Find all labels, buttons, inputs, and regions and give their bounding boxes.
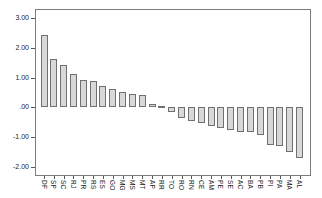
x-tick-label-MS: MS bbox=[129, 180, 136, 190]
bar-ES bbox=[99, 86, 106, 108]
x-tick-mark bbox=[64, 176, 65, 179]
bar-PA bbox=[276, 107, 283, 146]
x-tick-mark bbox=[172, 176, 173, 179]
x-tick-label-AM: AM bbox=[208, 180, 215, 190]
x-tick-mark bbox=[162, 176, 163, 179]
x-tick-mark bbox=[231, 176, 232, 179]
x-tick-mark bbox=[211, 176, 212, 179]
bar-AM bbox=[208, 107, 215, 125]
x-tick-mark bbox=[250, 176, 251, 179]
y-tick-label: -1.00 bbox=[5, 133, 29, 141]
bar-SC bbox=[60, 65, 67, 108]
x-tick-mark bbox=[152, 176, 153, 179]
bar-CE bbox=[198, 107, 205, 123]
y-tick-mark bbox=[31, 107, 35, 108]
x-tick-mark bbox=[280, 176, 281, 179]
x-tick-mark bbox=[300, 176, 301, 179]
x-tick-label-RO: RO bbox=[178, 180, 185, 190]
x-tick-label-GO: GO bbox=[109, 180, 116, 191]
x-tick-mark bbox=[142, 176, 143, 179]
y-tick-mark bbox=[31, 48, 35, 49]
x-tick-mark bbox=[270, 176, 271, 179]
bar-MT bbox=[139, 95, 146, 108]
x-tick-mark bbox=[191, 176, 192, 179]
x-tick-mark bbox=[132, 176, 133, 179]
x-tick-mark bbox=[241, 176, 242, 179]
x-tick-label-MA: MA bbox=[286, 180, 293, 190]
x-tick-mark bbox=[182, 176, 183, 179]
x-tick-mark bbox=[93, 176, 94, 179]
bar-GO bbox=[109, 89, 116, 107]
bar-RO bbox=[178, 107, 185, 118]
bar-TO bbox=[168, 107, 175, 112]
x-tick-mark bbox=[201, 176, 202, 179]
bar-SP bbox=[50, 59, 57, 108]
x-tick-label-AC: AC bbox=[237, 180, 244, 189]
x-tick-label-PR: PR bbox=[80, 180, 87, 189]
y-tick-mark bbox=[31, 18, 35, 19]
bar-RJ bbox=[70, 74, 77, 108]
x-tick-label-TO: TO bbox=[168, 180, 175, 189]
x-tick-mark bbox=[44, 176, 45, 179]
x-tick-label-MT: MT bbox=[139, 180, 146, 190]
x-tick-label-DF: DF bbox=[41, 180, 48, 189]
bar-AP bbox=[149, 104, 156, 107]
bar-RR bbox=[158, 106, 165, 108]
bar-AC bbox=[237, 107, 244, 131]
y-tick-label: 2.00 bbox=[5, 44, 29, 52]
x-tick-label-CE: CE bbox=[198, 180, 205, 189]
y-tick-label: 3.00 bbox=[5, 14, 29, 22]
x-tick-label-SC: SC bbox=[60, 180, 67, 189]
bar-PE bbox=[217, 107, 224, 127]
bar-RS bbox=[90, 81, 97, 107]
bar-DF bbox=[41, 35, 48, 107]
bar-MS bbox=[129, 94, 136, 108]
y-tick-mark bbox=[31, 167, 35, 168]
x-tick-label-BA: BA bbox=[247, 180, 254, 189]
x-tick-label-PA: PA bbox=[276, 180, 283, 189]
x-tick-mark bbox=[103, 176, 104, 179]
y-tick-label: 1.00 bbox=[5, 74, 29, 82]
bar-PI bbox=[267, 107, 274, 145]
bar-BA bbox=[247, 107, 254, 132]
x-tick-label-MG: MG bbox=[119, 180, 126, 191]
bar-chart-figure: 3.002.001.00.00-1.00-2.00 DFSPSCRJPRRSES… bbox=[0, 0, 322, 198]
x-tick-label-SP: SP bbox=[50, 180, 57, 189]
x-tick-label-RS: RS bbox=[90, 180, 97, 189]
bar-AL bbox=[296, 107, 303, 158]
y-tick-label: -2.00 bbox=[5, 163, 29, 171]
x-tick-label-RR: RR bbox=[158, 180, 165, 190]
bar-RN bbox=[188, 107, 195, 121]
x-tick-label-RJ: RJ bbox=[70, 180, 77, 188]
x-tick-label-RN: RN bbox=[188, 180, 195, 190]
bar-PB bbox=[257, 107, 264, 135]
x-tick-label-PE: PE bbox=[217, 180, 224, 189]
bar-PR bbox=[80, 80, 87, 108]
x-tick-label-AP: AP bbox=[149, 180, 156, 189]
x-tick-mark bbox=[123, 176, 124, 179]
x-tick-label-SE: SE bbox=[227, 180, 234, 189]
x-tick-label-PB: PB bbox=[257, 180, 264, 189]
y-tick-mark bbox=[31, 78, 35, 79]
y-tick-mark bbox=[31, 137, 35, 138]
x-tick-label-ES: ES bbox=[99, 180, 106, 189]
y-tick-label: .00 bbox=[5, 103, 29, 111]
bar-MG bbox=[119, 92, 126, 108]
x-tick-mark bbox=[113, 176, 114, 179]
x-tick-mark bbox=[83, 176, 84, 179]
x-tick-label-PI: PI bbox=[267, 180, 274, 187]
x-tick-mark bbox=[73, 176, 74, 179]
x-tick-mark bbox=[290, 176, 291, 179]
x-tick-mark bbox=[54, 176, 55, 179]
x-tick-mark bbox=[260, 176, 261, 179]
x-tick-label-AL: AL bbox=[296, 180, 303, 188]
bar-SE bbox=[227, 107, 234, 130]
x-tick-mark bbox=[221, 176, 222, 179]
bar-MA bbox=[286, 107, 293, 151]
